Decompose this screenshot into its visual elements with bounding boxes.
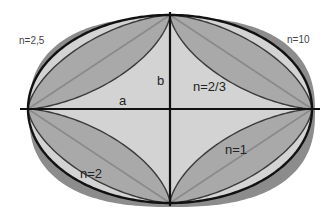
label-n-10: n=10 [287, 35, 310, 45]
label-n-1: n=1 [225, 143, 247, 156]
label-b: b [157, 74, 164, 87]
label-n-2: n=2 [80, 167, 102, 180]
label-a: a [119, 94, 126, 107]
label-n-2-5: n=2,5 [19, 36, 44, 46]
label-n-2-3: n=2/3 [193, 80, 226, 93]
superellipse-diagram [0, 0, 333, 218]
